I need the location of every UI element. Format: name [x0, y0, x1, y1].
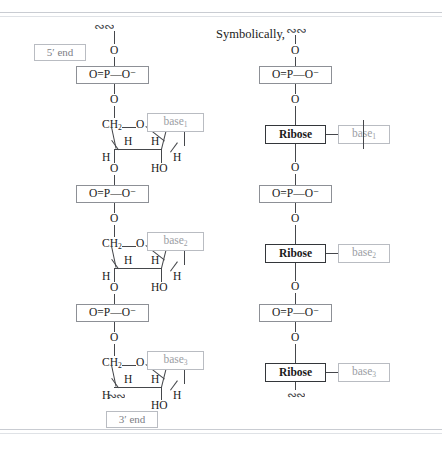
- base-label-1: base1: [147, 113, 204, 132]
- page-rule-bottom-1: [0, 429, 442, 430]
- atom-oxygen-r4: O: [291, 213, 299, 225]
- atom-oxygen-r6: O: [291, 332, 299, 344]
- r-bond-o-to-p-1: [295, 57, 296, 66]
- ring2-bond-c2-ho: [161, 268, 162, 282]
- atom-oxygen-l1: O: [110, 45, 118, 57]
- atom-oxygen-l2: O: [110, 94, 118, 106]
- ring1-bond-ch2-o: [122, 127, 136, 128]
- phosphate-group-3: O=P—O⁻: [76, 304, 149, 322]
- atom-hydroxyl-l2: HO: [151, 282, 168, 294]
- atom-oxygen-l5: O: [110, 282, 118, 294]
- ribose-box-3: Ribose: [265, 363, 326, 382]
- bond-squiggle-to-o-1: [114, 31, 115, 44]
- r-bond-ribose-to-o-2: [295, 263, 296, 281]
- r-bond-o-to-ribose-3: [295, 344, 296, 363]
- page-rule-top-1: [0, 12, 442, 13]
- atom-hydrogen-l2a: H: [124, 255, 132, 267]
- chain-continues-squiggle-right-top: ∾∾: [286, 24, 306, 37]
- ring2-bond-c3-o: [114, 268, 115, 282]
- bond-o-to-ch2-2: [114, 225, 115, 237]
- chain-continues-squiggle-right-bottom: ∾∾: [287, 389, 305, 401]
- atom-oxygen-l3: O: [110, 163, 118, 175]
- figure-page: Symbolically, ∾∾ 5′ end O O=P—O⁻ O CH2 O…: [0, 0, 442, 449]
- symbolic-base-label-3: base3: [338, 363, 390, 382]
- symbolic-phosphate-group-2: O=P—O⁻: [259, 185, 332, 203]
- symbolic-phosphate-text-2: O=P—O⁻: [272, 188, 319, 200]
- phosphate-text-2: O=P—O⁻: [89, 188, 136, 200]
- atom-hydrogen-l1d: H: [173, 152, 181, 164]
- atom-hydroxyl-l1: HO: [151, 163, 168, 175]
- page-rule-bottom-2: [0, 433, 442, 434]
- ring1-bond-c3-o: [114, 149, 115, 163]
- bond-o-to-p-2: [114, 175, 115, 185]
- bond-o-to-ch2-1: [114, 106, 115, 118]
- symbolically-heading: Symbolically,: [216, 27, 285, 42]
- atom-ring-oxygen-3: O: [136, 357, 144, 369]
- three-prime-end-label: 3′ end: [106, 411, 158, 428]
- atom-oxygen-l4: O: [110, 213, 118, 225]
- atom-ring-oxygen-1: O: [136, 119, 144, 131]
- atom-ring-oxygen-2: O: [136, 238, 144, 250]
- atom-hydrogen-l1b: H: [151, 136, 159, 148]
- atom-oxygen-r2: O: [291, 94, 299, 106]
- ring3-bond-ch2-o: [122, 365, 136, 366]
- symbolic-phosphate-text-1: O=P—O⁻: [272, 69, 319, 81]
- atom-hydrogen-l1a: H: [124, 136, 132, 148]
- atom-hydrogen-l2b: H: [151, 255, 159, 267]
- ribose-box-2: Ribose: [265, 244, 326, 263]
- five-prime-end-label: 5′ end: [34, 44, 86, 61]
- ribose-box-1: Ribose: [265, 125, 326, 144]
- atom-hydrogen-l3b: H: [151, 374, 159, 386]
- r-bond-squiggle-to-o-1: [295, 35, 296, 44]
- symbolic-base-label-2: base2: [338, 244, 390, 263]
- phosphate-group-2: O=P—O⁻: [76, 185, 149, 203]
- ring2-bond-ch2-o: [122, 246, 136, 247]
- atom-oxygen-r5: O: [291, 281, 299, 293]
- chain-continues-squiggle-left-top: ∾∾: [94, 20, 114, 33]
- r-bond-o-to-ribose-2: [295, 225, 296, 244]
- symbolic-base-label-1: base1: [338, 125, 390, 144]
- atom-hydrogen-l2d: H: [173, 271, 181, 283]
- phosphate-text-3: O=P—O⁻: [89, 307, 136, 319]
- phosphate-group-1: O=P—O⁻: [76, 66, 149, 84]
- atom-hydroxyl-l3: HO: [151, 400, 168, 412]
- atom-oxygen-l6: O: [110, 332, 118, 344]
- bond-o-to-ch2-3: [114, 344, 115, 356]
- chain-continues-squiggle-left-bottom: ∾∾: [107, 390, 125, 402]
- r-bond-o-to-p-2: [295, 174, 296, 185]
- symbolic-phosphate-group-3: O=P—O⁻: [259, 304, 332, 322]
- ring1-bond-c2-ho: [161, 149, 162, 163]
- r-bond-o-to-ribose-1: [295, 106, 296, 125]
- bond-o-to-p-1: [114, 57, 115, 66]
- ring3-bond-c3-c2: [114, 387, 161, 388]
- ribose2-bond-to-base: [326, 253, 338, 254]
- ribose1-bond-to-base: [326, 134, 338, 135]
- symbolic-phosphate-text-3: O=P—O⁻: [272, 307, 319, 319]
- atom-hydrogen-l3d: H: [173, 390, 181, 402]
- r-bond-o-to-p-3: [295, 293, 296, 304]
- base-label-2: base2: [147, 232, 204, 251]
- atom-oxygen-r1: O: [291, 45, 299, 57]
- base-label-3: base3: [147, 351, 204, 370]
- ring1-bond-c3-c2: [114, 149, 161, 150]
- page-rule-top-2: [0, 16, 442, 17]
- ribose3-bond-to-base: [326, 372, 338, 373]
- phosphate-text-1: O=P—O⁻: [89, 69, 136, 81]
- symbolic-base1-stub: [363, 120, 364, 149]
- symbolic-phosphate-group-1: O=P—O⁻: [259, 66, 332, 84]
- atom-oxygen-r3: O: [291, 162, 299, 174]
- atom-hydrogen-l3a: H: [124, 374, 132, 386]
- r-bond-ribose-to-o-1: [295, 144, 296, 162]
- ring2-bond-c3-c2: [114, 268, 161, 269]
- bond-o-to-p-3: [114, 294, 115, 304]
